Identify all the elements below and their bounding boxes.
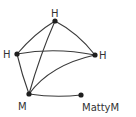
node-left-h	[14, 51, 19, 56]
edge-top-h-left-h	[17, 21, 55, 54]
node-top-h	[52, 18, 57, 23]
edge-top-h-m	[29, 21, 55, 94]
edge-left-h-right-h	[17, 51, 95, 55]
label-left-h: H	[3, 49, 11, 60]
node-right-h	[92, 52, 97, 57]
label-top-h: H	[51, 8, 59, 19]
edge-m-mattym	[29, 94, 81, 96]
graph-diagram: H H H M MattyM	[0, 0, 136, 117]
label-m: M	[18, 101, 27, 112]
label-mattym: MattyM	[82, 102, 119, 113]
label-right-h: H	[99, 50, 107, 61]
edge-left-h-m	[17, 54, 29, 94]
edge-top-h-right-h	[55, 21, 95, 55]
node-mattym	[78, 92, 83, 97]
node-m	[26, 91, 31, 96]
